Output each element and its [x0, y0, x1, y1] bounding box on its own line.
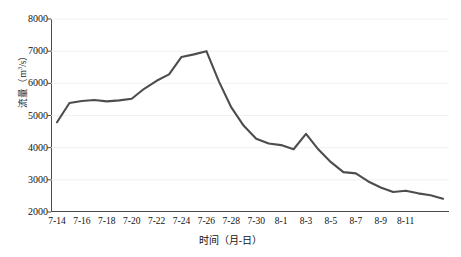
- flow-series-line: [57, 51, 443, 199]
- x-axis-tick-label: 7-28: [223, 216, 240, 226]
- flow-rate-line-chart: 流量（m3/s） 8000700060005000400030002000 7-…: [0, 0, 461, 257]
- x-axis-title: 时间（月-日）: [0, 232, 461, 247]
- x-axis-tick-label: 7-26: [198, 216, 215, 226]
- x-axis-tick-label: 8-3: [300, 216, 313, 226]
- y-axis-tick-label: 3000: [12, 175, 48, 185]
- x-axis-tick-label: 8-5: [325, 216, 338, 226]
- y-axis-tick-label: 6000: [12, 78, 48, 88]
- y-axis-tick-label: 5000: [12, 111, 48, 121]
- x-axis-tick-label: 7-14: [48, 216, 65, 226]
- x-axis-tick-label: 7-20: [123, 216, 140, 226]
- x-axis-tick-label: 7-16: [73, 216, 90, 226]
- x-axis-tick-label: 7-30: [248, 216, 265, 226]
- x-axis-tick-label: 7-22: [148, 216, 165, 226]
- plot-area: [51, 19, 449, 212]
- x-axis-tick-label: 7-24: [173, 216, 190, 226]
- x-axis-tick-label: 8-7: [349, 216, 362, 226]
- y-tickmarks-group: [48, 19, 52, 212]
- x-axis-tick-label: 8-11: [397, 216, 414, 226]
- x-axis-tick-label: 8-9: [374, 216, 387, 226]
- y-axis-tick-label: 8000: [12, 14, 48, 24]
- y-axis-tick-label: 7000: [12, 46, 48, 56]
- y-axis-tick-label: 4000: [12, 143, 48, 153]
- gridlines-group: [51, 19, 449, 180]
- x-axis-tick-label: 8-1: [275, 216, 288, 226]
- x-axis-tick-label: 7-18: [98, 216, 115, 226]
- x-axis-tick-labels: 7-147-167-187-207-227-247-267-287-308-18…: [0, 216, 461, 232]
